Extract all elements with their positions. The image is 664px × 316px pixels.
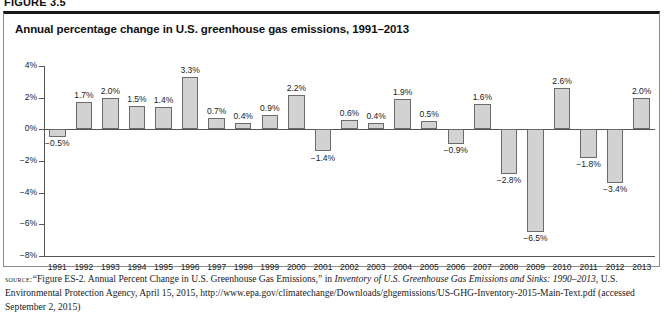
bar[interactable] [288, 95, 304, 130]
y-axis-tick: −8% [6, 256, 44, 257]
figure-label: FIGURE 3.5 [4, 0, 66, 10]
bar[interactable] [421, 121, 437, 129]
bar-group: 0.4%1998 [230, 66, 257, 256]
y-axis-tick: 0% [6, 129, 44, 130]
y-axis-tick: −2% [6, 161, 44, 162]
y-axis-tick: −6% [6, 224, 44, 225]
y-axis-tick-label: 2% [25, 92, 37, 102]
chart-title: Annual percentage change in U.S. greenho… [15, 23, 409, 35]
y-axis-tick-label: −6% [20, 218, 37, 228]
bar-value-label: 2.0% [622, 86, 662, 96]
bar[interactable] [580, 129, 596, 158]
bar[interactable] [341, 120, 357, 130]
y-axis-tick: 4% [6, 66, 44, 67]
bar-group: −2.8%2008 [496, 66, 523, 256]
bar-group: 0.6%2002 [336, 66, 363, 256]
bar-chart-plot-area: 4%2%0%−2%−4%−6%−8% −0.5%19911.7%19922.0%… [44, 66, 655, 256]
bar[interactable] [235, 123, 251, 129]
y-axis-tick: 2% [6, 98, 44, 99]
bar[interactable] [182, 77, 198, 129]
x-axis-line [44, 256, 655, 257]
bar-group: 0.5%2005 [416, 66, 443, 256]
bar-group: 1.6%2007 [469, 66, 496, 256]
bar[interactable] [262, 115, 278, 129]
bar[interactable] [129, 106, 145, 130]
source-text-italic: Inventory of U.S. Greenhouse Gas Emissio… [335, 273, 596, 284]
bar[interactable] [474, 104, 490, 129]
bar[interactable] [607, 129, 623, 183]
bar-group: −1.4%2001 [310, 66, 337, 256]
bar-group: 1.9%2004 [389, 66, 416, 256]
bar-group: −1.8%2011 [575, 66, 602, 256]
y-axis-tick-label: −2% [20, 155, 37, 165]
y-axis-tick-label: 4% [25, 60, 37, 70]
bar-group: 1.4%1995 [150, 66, 177, 256]
source-text-part1: “Figure ES-2. Annual Percent Change in U… [33, 273, 335, 284]
bar[interactable] [448, 129, 464, 143]
bar[interactable] [76, 102, 92, 129]
bar[interactable] [527, 129, 543, 232]
bar[interactable] [501, 129, 517, 173]
figure-box: Annual percentage change in U.S. greenho… [3, 11, 660, 267]
y-axis-tick-label: 0% [25, 123, 37, 133]
bar-group: 0.9%1999 [257, 66, 284, 256]
source-note: source:“Figure ES-2. Annual Percent Chan… [5, 272, 655, 314]
y-axis-tick-mark [39, 256, 44, 257]
bar-group: 2.0%2013 [628, 66, 655, 256]
bar-group: 3.3%1996 [177, 66, 204, 256]
bar-group: 0.7%1997 [203, 66, 230, 256]
bar[interactable] [368, 123, 384, 129]
source-label: source: [5, 274, 33, 284]
y-axis-tick-label: −4% [20, 187, 37, 197]
bar[interactable] [554, 88, 570, 129]
bar-group: −6.5%2009 [522, 66, 549, 256]
bar[interactable] [315, 129, 331, 151]
y-axis-tick: −4% [6, 193, 44, 194]
x-axis-tick-label: 2013 [622, 262, 662, 272]
y-axis-tick-label: −8% [20, 250, 37, 260]
bar[interactable] [155, 107, 171, 129]
bar[interactable] [49, 129, 65, 137]
bar[interactable] [633, 98, 649, 130]
